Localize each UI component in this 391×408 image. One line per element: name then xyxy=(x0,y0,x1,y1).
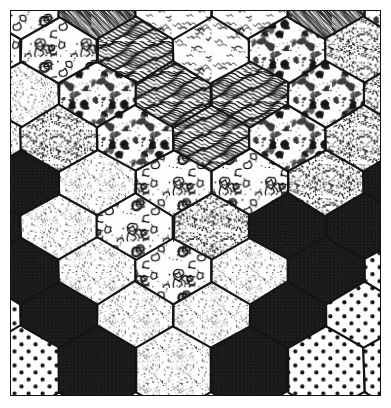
hexagon-tessellation-canvas: Blob ClustersDiagonal HatchSquiggle Worm… xyxy=(11,11,380,395)
figure-frame-border: Blob ClustersDiagonal HatchSquiggle Worm… xyxy=(10,10,381,396)
hexagon-cell-layer: Blob ClustersDiagonal HatchSquiggle Worm… xyxy=(11,11,380,395)
figure-root: Blob ClustersDiagonal HatchSquiggle Worm… xyxy=(0,0,391,408)
